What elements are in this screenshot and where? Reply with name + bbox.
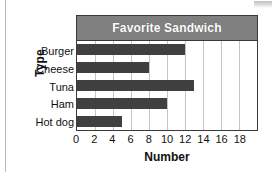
x-axis-tick-label: 14 [197, 133, 209, 145]
bar-tuna [77, 80, 194, 91]
x-axis-tick-label: 12 [179, 133, 191, 145]
bar-row [77, 95, 257, 112]
bar-ham [77, 98, 167, 109]
x-axis-tick-label: 8 [146, 133, 152, 145]
bar-cheese [77, 62, 149, 73]
x-axis-tick-label: 4 [109, 133, 115, 145]
chart-title-banner: Favorite Sandwich [77, 16, 257, 41]
y-axis-tick-label: Hot dog [24, 114, 74, 131]
x-axis-tick-label: 16 [215, 133, 227, 145]
y-axis-tick-label: Tuna [24, 79, 74, 96]
x-axis-tick-label: 10 [161, 133, 173, 145]
x-axis-tick-label: 6 [128, 133, 134, 145]
y-axis-tick-labels: BurgerCheeseTunaHamHot dog [24, 43, 74, 131]
chart-plot-box: Favorite Sandwich [76, 15, 258, 131]
x-axis-tick-label: 2 [91, 133, 97, 145]
x-axis-tick-label: 18 [234, 133, 246, 145]
bar-row [77, 41, 257, 58]
bar-chart-figure: Type BurgerCheeseTunaHamHot dog Favorite… [0, 0, 274, 172]
plot-area [77, 41, 257, 130]
x-axis-title: Number [76, 150, 258, 164]
x-axis-tick-labels: 024681012141618 [76, 133, 258, 147]
bar-row [77, 113, 257, 130]
bar-burger [77, 44, 185, 55]
y-axis-tick-label: Ham [24, 96, 74, 113]
y-axis-tick-label: Cheese [24, 61, 74, 78]
bar-hot-dog [77, 116, 122, 127]
bar-row [77, 77, 257, 94]
y-axis-tick-label: Burger [24, 43, 74, 60]
bar-row [77, 59, 257, 76]
x-axis-tick-label: 0 [73, 133, 79, 145]
chart-title: Favorite Sandwich [112, 21, 221, 35]
bar-series [77, 41, 257, 130]
